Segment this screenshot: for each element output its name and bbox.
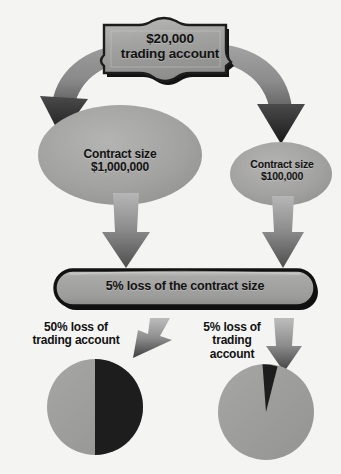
outcome-left-label: 50% loss of trading account [14, 321, 138, 347]
pill-label: 5% loss of the contract size [62, 280, 308, 293]
banner-amount: $20,000 [110, 31, 230, 46]
outcome-right-line2: trading [186, 334, 278, 347]
outcome-right-line1: 5% loss of [186, 321, 278, 334]
contract-large-amount: $1,000,000 [58, 161, 182, 174]
banner-label: $20,000 trading account [110, 31, 230, 62]
arrow-small-contract-to-pill [262, 196, 304, 268]
outcome-left-line2: trading account [14, 334, 138, 347]
contract-small-caption: Contract size [236, 159, 328, 171]
outcome-right-label: 5% loss of trading account [186, 321, 278, 361]
diagram-canvas: $20,000 trading account Contract size $1… [0, 0, 341, 474]
banner-caption: trading account [110, 46, 230, 61]
arrow-pill-to-left-pie [133, 318, 172, 358]
pie-chart-5-percent [218, 364, 314, 460]
outcome-right-line3: account [186, 348, 278, 361]
flow-diagram [0, 0, 341, 474]
contract-large-label: Contract size $1,000,000 [58, 148, 182, 175]
pie-chart-50-percent [47, 359, 143, 455]
contract-small-amount: $100,000 [236, 171, 328, 183]
contract-large-caption: Contract size [58, 148, 182, 161]
contract-small-label: Contract size $100,000 [236, 159, 328, 183]
